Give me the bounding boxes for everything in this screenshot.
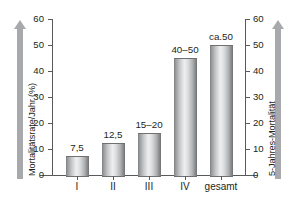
arrow-shaft bbox=[17, 29, 23, 179]
y-axis-right-tick-label: 50 bbox=[253, 39, 273, 50]
y-axis-left-tick-label: 50 bbox=[16, 39, 44, 50]
y-axis-left-tick bbox=[48, 123, 52, 124]
y-axis-right-tick-label: 30 bbox=[253, 91, 273, 102]
y-axis-label-right: 5-Jahres-Mortalität bbox=[267, 101, 277, 176]
y-axis-right-tick bbox=[246, 123, 250, 124]
y-axis-right-tick-label: 40 bbox=[253, 65, 273, 76]
bar-value-label: 7,5 bbox=[52, 142, 102, 153]
y-axis-left-tick-label: 40 bbox=[16, 65, 44, 76]
y-axis-left-tick-label: 60 bbox=[16, 13, 44, 24]
y-axis-left-tick bbox=[48, 97, 52, 98]
x-axis-tick bbox=[149, 176, 150, 180]
y-axis-right-tick bbox=[246, 19, 250, 20]
y-axis-right-tick-label: 0 bbox=[253, 169, 273, 180]
y-axis-left-tick bbox=[48, 175, 52, 176]
y-axis-left-tick bbox=[48, 19, 52, 20]
bar-ii bbox=[102, 143, 125, 178]
x-axis-category-label: gesamt bbox=[195, 181, 247, 192]
mortality-bar-chart: Mortalitätsrate/Jahr (%) 5-Jahres-Mortal… bbox=[0, 0, 298, 204]
x-axis-tick bbox=[77, 176, 78, 180]
y-axis-right-tick-label: 60 bbox=[253, 13, 273, 24]
bar-gesamt bbox=[210, 45, 233, 177]
y-axis-right-tick-label: 20 bbox=[253, 117, 273, 128]
y-axis-right-tick bbox=[246, 149, 250, 150]
y-axis-left-tick bbox=[48, 45, 52, 46]
y-axis-right-tick bbox=[246, 45, 250, 46]
y-axis-left-tick-label: 10 bbox=[16, 143, 44, 154]
y-axis-right-tick bbox=[246, 97, 250, 98]
bar-value-label: 15–20 bbox=[124, 119, 174, 130]
y-axis-left-tick-label: 30 bbox=[16, 91, 44, 102]
bar-iv bbox=[174, 58, 197, 177]
bar-value-label: 40–50 bbox=[160, 44, 210, 55]
y-axis-left-tick-label: 20 bbox=[16, 117, 44, 128]
y-axis-right-tick bbox=[246, 175, 250, 176]
bar-value-label: ca.50 bbox=[196, 31, 246, 42]
bar-i bbox=[66, 156, 89, 178]
x-axis-tick bbox=[221, 176, 222, 180]
x-axis-tick bbox=[113, 176, 114, 180]
y-axis-right-tick bbox=[246, 71, 250, 72]
x-axis-tick bbox=[185, 176, 186, 180]
arrow-head bbox=[272, 20, 284, 29]
y-axis-right-tick-label: 10 bbox=[253, 143, 273, 154]
bar-iii bbox=[138, 133, 161, 177]
y-axis-left-tick-label: 0 bbox=[16, 169, 44, 180]
y-axis-left-tick bbox=[48, 71, 52, 72]
